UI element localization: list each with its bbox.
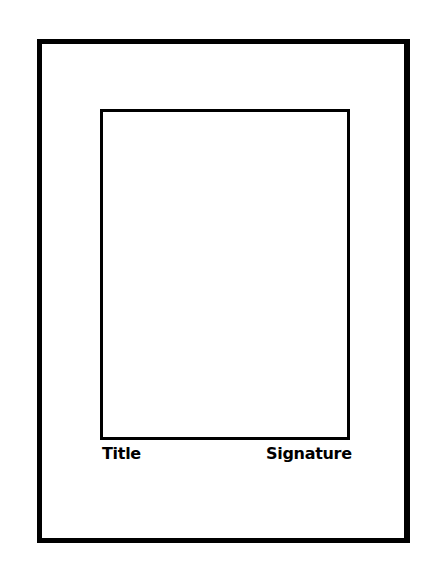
signature-label: Signature (266, 444, 352, 463)
title-label: Title (102, 444, 141, 463)
inner-image-window (100, 109, 350, 440)
